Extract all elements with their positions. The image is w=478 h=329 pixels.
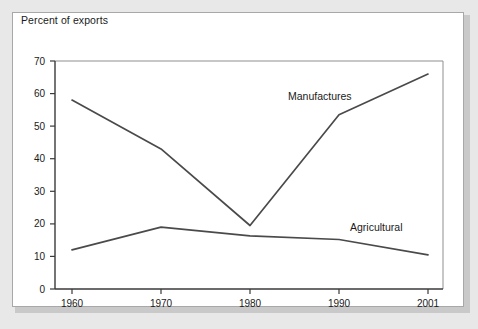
y-tick-label-10: 10 [34, 251, 46, 262]
y-tick-label-40: 40 [34, 153, 46, 164]
x-tick-label-1990: 1990 [328, 298, 351, 309]
series-label-agricultural: Agricultural [350, 221, 403, 233]
plot-frame [55, 61, 443, 289]
y-tick-label-0: 0 [39, 284, 45, 295]
y-tick-label-50: 50 [34, 121, 46, 132]
line-chart-plot: 70 60 50 40 30 20 10 0 1960 1970 1980 19… [0, 0, 478, 329]
y-tick-label-30: 30 [34, 186, 46, 197]
y-tick-label-70: 70 [34, 56, 46, 67]
series-label-manufactures: Manufactures [288, 90, 352, 102]
y-axis-ticks: 70 60 50 40 30 20 10 0 [34, 56, 55, 295]
y-tick-label-20: 20 [34, 218, 46, 229]
x-axis-ticks: 1960 1970 1980 1990 2001 [61, 289, 440, 309]
x-tick-label-2001: 2001 [417, 298, 440, 309]
figure-root: Percent of exports 70 60 50 40 30 [0, 0, 478, 329]
x-tick-label-1970: 1970 [150, 298, 173, 309]
x-tick-label-1960: 1960 [61, 298, 84, 309]
series-line-manufactures [72, 74, 428, 225]
y-tick-label-60: 60 [34, 88, 46, 99]
x-tick-label-1980: 1980 [239, 298, 262, 309]
axes [55, 61, 443, 289]
